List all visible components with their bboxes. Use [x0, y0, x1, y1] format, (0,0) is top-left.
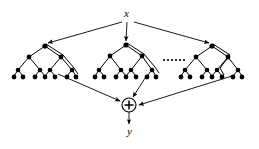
edge-tree-left-to-sum: [58, 74, 120, 101]
ellipsis-dots: [163, 59, 185, 61]
sum-node: [122, 98, 136, 112]
tree-middle-edges: [95, 45, 156, 76]
sum-input-edges: [58, 74, 232, 105]
edge-x-to-tree-middle: [126, 22, 127, 41]
tree-right: [179, 43, 245, 79]
tree-left-edges: [14, 46, 76, 76]
diagram-canvas: x y: [0, 0, 259, 149]
tree-left: [12, 43, 79, 79]
edge-x-to-tree-left: [48, 22, 122, 43]
input-fanout-edges: [48, 22, 209, 43]
tree-middle: [93, 42, 159, 79]
input-label-x: x: [124, 8, 129, 19]
tree-right-edges: [181, 46, 242, 76]
edge-x-to-tree-right: [134, 22, 209, 43]
edge-tree-right-to-sum: [139, 76, 232, 105]
output-label-y: y: [127, 126, 132, 137]
